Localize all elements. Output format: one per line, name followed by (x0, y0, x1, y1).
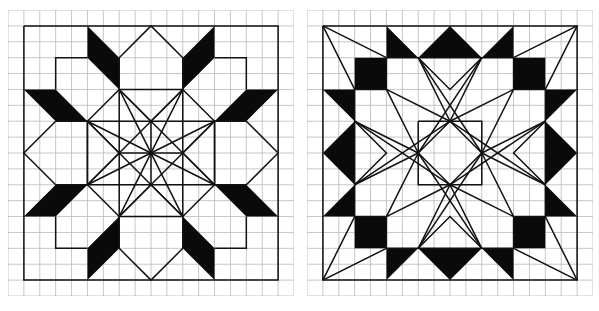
filled-shape (514, 58, 546, 90)
star-medallion-block-svg (307, 10, 593, 296)
left-quilt-block (8, 10, 294, 296)
right-quilt-block (307, 10, 593, 296)
filled-shape (355, 217, 387, 249)
eight-pointed-star-block-svg (8, 10, 294, 296)
filled-shape (355, 58, 387, 90)
filled-shape (514, 217, 546, 249)
